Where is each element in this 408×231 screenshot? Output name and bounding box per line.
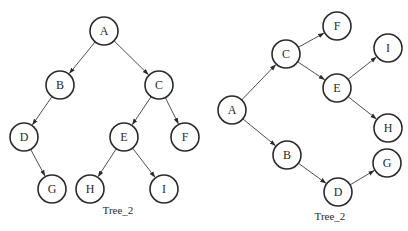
svg-text:C: C: [282, 47, 290, 61]
svg-text:H: H: [86, 182, 95, 196]
node-H: H: [374, 114, 402, 142]
diagram-caption: Tree_2: [315, 210, 346, 222]
edge-D-G: [31, 149, 45, 175]
svg-text:C: C: [155, 78, 163, 92]
tree-diagrams: ABCDEFGHITree_2ACBFEDIHGTree_2: [0, 0, 408, 231]
edge-D-G: [350, 171, 374, 185]
node-G: G: [38, 175, 66, 203]
tree-diagram-2: ACBFEDIHGTree_2: [218, 12, 402, 222]
node-I: I: [374, 34, 402, 62]
node-G: G: [373, 149, 401, 177]
edge-E-I: [133, 148, 155, 177]
svg-text:B: B: [283, 148, 291, 162]
edge-B-D: [33, 97, 52, 125]
edge-E-I: [348, 57, 376, 79]
svg-text:E: E: [333, 81, 340, 95]
node-D: D: [324, 178, 352, 206]
edge-C-F: [298, 33, 324, 47]
edge-A-C: [242, 65, 276, 100]
svg-text:A: A: [100, 24, 109, 38]
node-C: C: [145, 71, 173, 99]
node-A: A: [90, 17, 118, 45]
edge-A-C: [114, 41, 148, 75]
node-B: B: [46, 71, 74, 99]
node-B: B: [273, 141, 301, 169]
node-A: A: [218, 96, 246, 124]
edge-B-D: [298, 163, 326, 183]
node-I: I: [150, 175, 178, 203]
svg-text:G: G: [383, 156, 392, 170]
svg-text:I: I: [162, 182, 166, 196]
edge-A-B: [243, 119, 276, 146]
svg-text:B: B: [56, 78, 64, 92]
svg-text:D: D: [20, 130, 29, 144]
svg-text:F: F: [334, 19, 341, 33]
edge-C-F: [165, 98, 178, 124]
edge-C-E: [298, 62, 325, 80]
svg-text:G: G: [48, 182, 57, 196]
node-F: F: [323, 12, 351, 40]
node-E: E: [110, 123, 138, 151]
svg-text:H: H: [384, 121, 393, 135]
svg-text:D: D: [334, 185, 343, 199]
tree-diagram-1: ABCDEFGHITree_2: [10, 17, 199, 216]
diagram-caption: Tree_2: [103, 204, 134, 216]
node-D: D: [10, 123, 38, 151]
svg-text:F: F: [182, 130, 189, 144]
edge-E-H: [348, 97, 376, 119]
svg-text:I: I: [386, 41, 390, 55]
node-H: H: [76, 175, 104, 203]
edge-E-H: [98, 149, 116, 177]
node-E: E: [323, 74, 351, 102]
node-F: F: [171, 123, 199, 151]
edge-A-B: [69, 42, 95, 74]
edge-C-E: [132, 97, 151, 125]
svg-text:A: A: [228, 103, 237, 117]
node-C: C: [272, 40, 300, 68]
svg-text:E: E: [120, 130, 127, 144]
